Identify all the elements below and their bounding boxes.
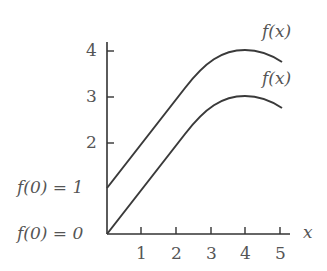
annotation-f0-equals-0: f(0) = 0 (17, 225, 83, 242)
x-tick-label-2: 2 (171, 245, 182, 262)
x-tick-label-4: 4 (240, 245, 251, 262)
y-tick-label-3: 3 (86, 88, 97, 105)
curve-upper (107, 50, 282, 188)
x-axis-label: x (303, 224, 313, 241)
curve-label-lower: f(x) (262, 70, 291, 87)
x-tick-label-5: 5 (275, 245, 286, 262)
curve-label-upper: f(x) (262, 23, 291, 40)
x-tick-label-3: 3 (206, 245, 217, 262)
annotation-f0-equals-1: f(0) = 1 (17, 179, 83, 196)
y-tick-label-4: 4 (86, 42, 97, 59)
curve-lower (107, 96, 282, 234)
x-tick-label-1: 1 (136, 245, 147, 262)
y-tick-label-2: 2 (86, 134, 97, 151)
